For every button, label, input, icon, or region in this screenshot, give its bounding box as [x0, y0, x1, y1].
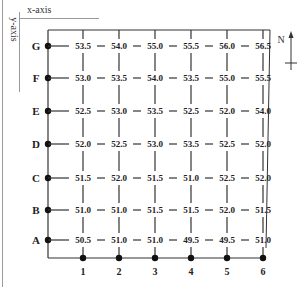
grid-value: 52.5: [219, 173, 235, 183]
grid-value: 52.0: [75, 139, 91, 149]
column-station-dot: [80, 255, 86, 261]
column-label: 4: [189, 266, 194, 277]
survey-grid: 123456G53.554.055.055.556.056.5F53.053.5…: [0, 0, 305, 287]
grid-value: 51.0: [111, 235, 127, 245]
grid-value: 49.5: [183, 235, 199, 245]
grid-value: 52.0: [219, 205, 235, 215]
column-station-dot: [152, 255, 158, 261]
grid-value: 51.0: [183, 173, 199, 183]
grid-value: 50.5: [75, 235, 91, 245]
row-label: C: [32, 172, 40, 184]
column-label: 5: [225, 266, 230, 277]
grid-value: 52.0: [255, 139, 271, 149]
grid-value: 51.5: [183, 205, 199, 215]
row-label: E: [32, 105, 39, 117]
grid-value: 52.0: [111, 173, 127, 183]
grid-value: 53.5: [111, 73, 127, 83]
row-label: F: [33, 72, 40, 84]
grid-value: 52.5: [219, 139, 235, 149]
column-station-dot: [188, 255, 194, 261]
grid-value: 54.0: [111, 41, 127, 51]
grid-value: 55.5: [255, 73, 271, 83]
grid-value: 55.5: [183, 41, 199, 51]
column-station-dot: [224, 255, 230, 261]
grid-value: 53.5: [147, 106, 163, 116]
grid-value: 54.0: [255, 106, 271, 116]
grid-value: 51.0: [111, 205, 127, 215]
grid-value: 51.5: [255, 205, 271, 215]
column-label: 1: [81, 266, 86, 277]
grid-value: 51.5: [147, 205, 163, 215]
grid-value: 51.0: [75, 205, 91, 215]
row-label: A: [32, 234, 40, 246]
column-label: 6: [261, 266, 266, 277]
grid-value: 51.0: [147, 235, 163, 245]
grid-value: 52.5: [183, 106, 199, 116]
row-label: G: [32, 40, 41, 52]
grid-value: 55.0: [219, 73, 235, 83]
grid-value: 52.0: [219, 106, 235, 116]
column-station-dot: [260, 255, 266, 261]
grid-value: 52.5: [75, 106, 91, 116]
column-label: 2: [117, 266, 122, 277]
grid-value: 51.5: [147, 173, 163, 183]
north-arrow-head-icon: [289, 31, 294, 38]
grid-value: 53.5: [183, 139, 199, 149]
grid-value: 55.0: [147, 41, 163, 51]
grid-value: 53.0: [147, 139, 163, 149]
grid-value: 49.5: [219, 235, 235, 245]
grid-value: 53.0: [111, 106, 127, 116]
compass-north-label: N: [277, 34, 284, 45]
row-label: B: [32, 204, 40, 216]
grid-value: 52.0: [255, 173, 271, 183]
column-label: 3: [153, 266, 158, 277]
grid-value: 53.5: [75, 41, 91, 51]
column-station-dot: [116, 255, 122, 261]
grid-value: 53.0: [75, 73, 91, 83]
grid-value: 53.5: [183, 73, 199, 83]
grid-value: 51.0: [255, 235, 271, 245]
grid-value: 54.0: [147, 73, 163, 83]
grid-value: 56.0: [219, 41, 235, 51]
row-label: D: [32, 138, 40, 150]
grid-value: 52.5: [111, 139, 127, 149]
grid-value: 56.5: [255, 41, 271, 51]
grid-value: 51.5: [75, 173, 91, 183]
